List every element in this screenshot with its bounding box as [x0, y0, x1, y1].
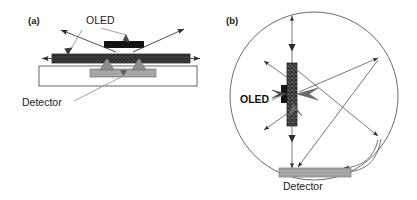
- vertical-down-mid-arrow: [288, 135, 295, 143]
- detector-bar-b: [279, 168, 351, 177]
- panel-a-group: (a): [22, 14, 200, 108]
- cathode-block: [104, 41, 144, 48]
- up-right-emission-ray: [133, 29, 184, 52]
- emit-right-upper-ray: [299, 58, 378, 92]
- oled-label-b: OLED: [240, 93, 270, 105]
- detector-leader-line-a: [74, 76, 123, 101]
- vertical-up-mid-arrow: [288, 44, 295, 52]
- emit-up-left-ray: [264, 61, 288, 78]
- figure-canvas: (a): [0, 0, 417, 200]
- oled-label-a: OLED: [86, 14, 115, 26]
- panel-a-label: (a): [28, 15, 40, 26]
- panel-b-group: (b): [226, 12, 398, 192]
- diagram-svg: (a): [0, 0, 417, 200]
- detector-label-a: Detector: [22, 96, 62, 108]
- emission-burst-right: [297, 88, 318, 100]
- bounce-upper-right-to-detector-ray: [298, 60, 378, 167]
- oled-leader-line-a: [101, 28, 126, 35]
- panel-b-label: (b): [226, 15, 238, 26]
- return-curve-to-detector-ray: [344, 140, 378, 168]
- emit-down-left-ray: [264, 113, 288, 130]
- detector-label-b: Detector: [283, 180, 323, 192]
